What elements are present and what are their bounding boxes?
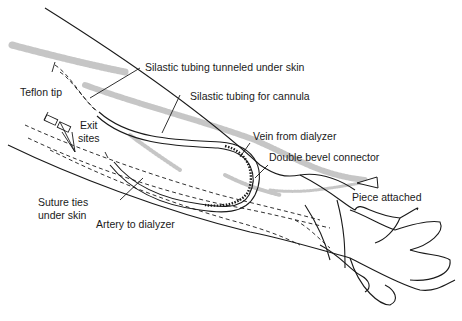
forearm-illustration [0,0,462,321]
label-silastic-tunneled: Silastic tubing tunneled under skin [145,61,304,74]
diagram-canvas: Silastic tubing tunneled under skin Sila… [0,0,462,321]
label-piece-attached: Piece attached [352,191,421,204]
label-suture-ties: Suture ties under skin [38,196,88,222]
label-silastic-cannula: Silastic tubing for cannula [190,90,310,103]
label-exit-sites: Exit sites [78,119,100,145]
teflon-tips [44,115,70,133]
silastic-tubing-loop [97,112,259,212]
label-artery-to-dialyzer: Artery to dialyzer [96,218,175,231]
label-vein-from-dialyzer: Vein from dialyzer [253,130,336,143]
label-double-bevel-connector: Double bevel connector [269,151,379,164]
label-teflon-tip: Teflon tip [20,86,62,99]
